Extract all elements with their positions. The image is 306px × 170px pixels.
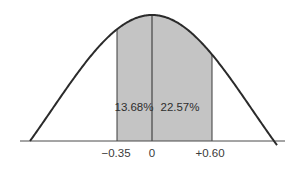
region-left-percent: 13.68%: [114, 101, 153, 113]
region-right-percent: 22.57%: [160, 101, 199, 113]
normal-curve-chart: [0, 0, 306, 170]
shaded-region: [117, 15, 212, 141]
x-tick-pos-0-60: +0.60: [195, 147, 224, 159]
x-tick-neg-0-35: −0.35: [101, 147, 130, 159]
x-tick-zero: 0: [149, 147, 155, 159]
